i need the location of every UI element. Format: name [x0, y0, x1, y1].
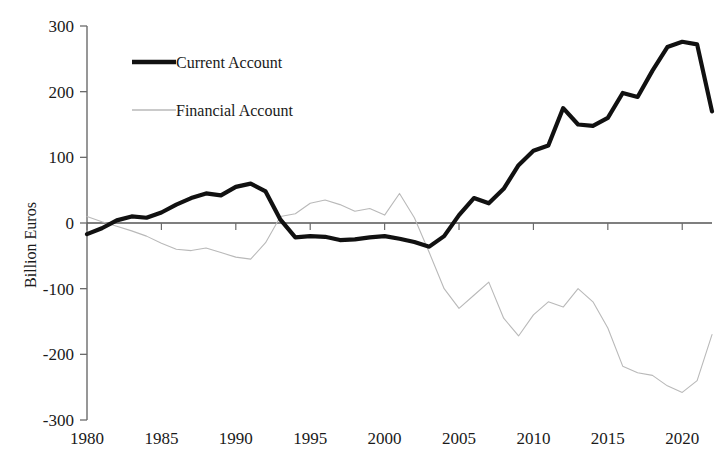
x-axis-tick-label: 1995	[293, 429, 327, 448]
y-axis-tick-label: 200	[49, 83, 75, 102]
x-axis-tick-label: 1985	[144, 429, 178, 448]
x-axis-tick-label: 2010	[516, 429, 550, 448]
y-axis-tick-label: -300	[43, 411, 74, 430]
chart-background	[0, 0, 715, 463]
y-axis-tick-label: 0	[66, 214, 75, 233]
y-axis-tick-label: 300	[49, 17, 75, 36]
y-axis-tick-label: 100	[49, 148, 75, 167]
x-axis-tick-label: 2020	[665, 429, 699, 448]
x-axis-tick-label: 1980	[70, 429, 104, 448]
y-axis-tick-label: -100	[43, 280, 74, 299]
chart-figure: 3002001000-100-200-300 19801985199019952…	[0, 0, 715, 463]
x-axis-tick-labels: 198019851990199520002005201020152020	[70, 429, 699, 448]
legend-label-current-account: Current Account	[176, 54, 283, 71]
y-axis-tick-label: -200	[43, 345, 74, 364]
legend-label-financial-account: Financial Account	[176, 102, 293, 119]
x-axis-tick-label: 2015	[591, 429, 625, 448]
x-axis-tick-label: 2000	[368, 429, 402, 448]
x-axis-tick-label: 1990	[219, 429, 253, 448]
y-axis-title: Billion Euros	[22, 202, 39, 288]
line-chart-canvas: 3002001000-100-200-300 19801985199019952…	[0, 0, 715, 463]
x-axis-tick-label: 2005	[442, 429, 476, 448]
